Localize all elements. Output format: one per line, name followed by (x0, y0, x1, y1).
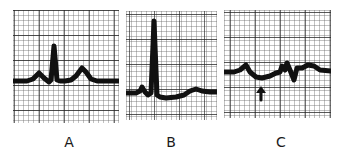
ecg-grid-c (224, 10, 331, 118)
panel-label-a: A (64, 133, 74, 151)
ecg-grid-a (13, 10, 119, 123)
panel-label-b: B (166, 133, 176, 151)
ecg-panel-c (224, 10, 331, 118)
panel-label-c: C (276, 133, 286, 151)
ecg-panel-b (126, 11, 217, 120)
ecg-panel-a (13, 10, 119, 123)
ecg-grid-b (126, 11, 217, 120)
